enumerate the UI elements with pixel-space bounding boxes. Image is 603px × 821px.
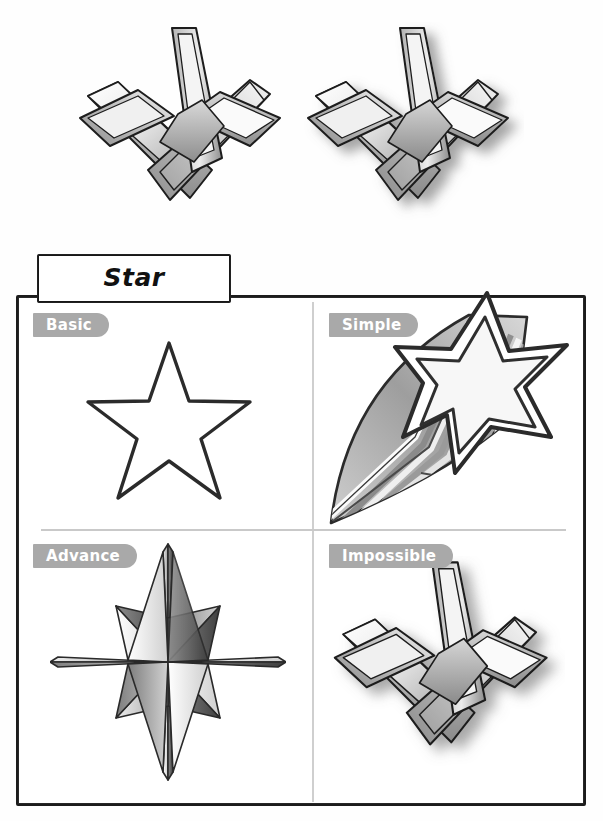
specimen-impossible-star-shadow — [302, 22, 524, 226]
sheet-title: Star — [103, 265, 164, 290]
quadrant-basic: Basic — [22, 301, 312, 529]
horizontal-divider — [41, 529, 566, 531]
quadrant-label-impossible: Impossible — [329, 544, 453, 568]
specimen-impossible-star-plain — [74, 22, 284, 222]
tutorial-panel: Basic Simple — [16, 295, 586, 806]
quadrant-label-advance: Advance — [33, 544, 137, 568]
quadrant-label-simple: Simple — [329, 313, 418, 337]
sheet-title-box: Star — [37, 254, 231, 303]
worksheet-page: Star Basic Simple — [0, 0, 603, 821]
vertical-divider — [312, 302, 314, 802]
artwork-impossible-interlocking-star — [315, 532, 586, 803]
quadrant-impossible: Impossible — [315, 532, 586, 803]
artwork-eight-point-compass-rose-star — [22, 532, 312, 803]
quadrant-advance: Advance — [22, 532, 312, 803]
quadrant-simple: Simple — [315, 301, 586, 529]
specimen-row — [0, 0, 603, 240]
quadrant-label-basic: Basic — [33, 313, 109, 337]
